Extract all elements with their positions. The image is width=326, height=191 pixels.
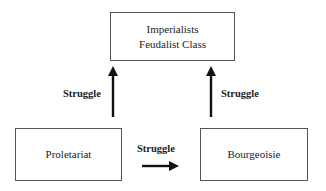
right-up-arrow-icon — [206, 66, 216, 117]
right-struggle-label: Struggle — [221, 88, 259, 99]
horizontal-right-arrow-icon — [142, 161, 179, 171]
arrows-layer — [0, 0, 326, 191]
middle-struggle-label: Struggle — [137, 143, 175, 154]
left-up-arrow-icon — [108, 66, 118, 117]
left-struggle-label: Struggle — [63, 88, 101, 99]
